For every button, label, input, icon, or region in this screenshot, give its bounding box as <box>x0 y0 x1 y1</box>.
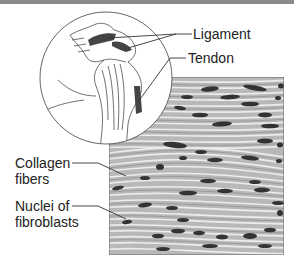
collagen-fibers-label: Collagen fibers <box>15 155 70 187</box>
collagen-label-line1: Collagen <box>15 155 70 171</box>
tendon-label: Tendon <box>188 50 234 66</box>
figure: Ligament Tendon Collagen fibers Nuclei o… <box>0 0 294 268</box>
nuclei-label-line1: Nuclei of <box>15 198 79 214</box>
ligament-label: Ligament <box>193 26 251 42</box>
fibroblast-nuclei-label: Nuclei of fibroblasts <box>15 198 79 230</box>
nuclei-label-line2: fibroblasts <box>15 214 79 230</box>
collagen-label-line2: fibers <box>15 171 70 187</box>
